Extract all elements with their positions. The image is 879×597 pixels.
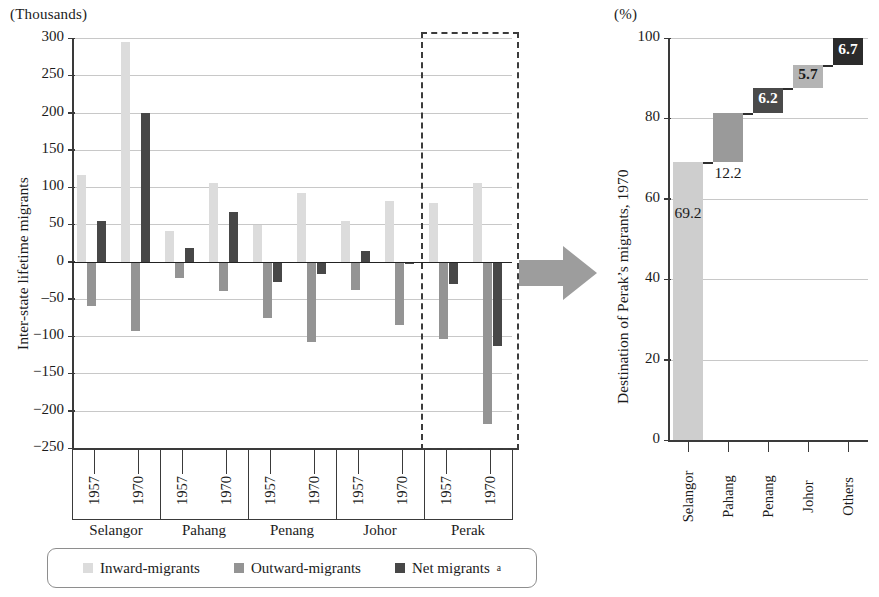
y-tick-mark <box>68 149 75 151</box>
waterfall-value-others: 6.7 <box>822 40 874 58</box>
y-tick-mark <box>68 410 75 412</box>
gridline <box>72 150 512 151</box>
group-label-penang: Penang <box>248 522 336 539</box>
bar-outward-johor-1970 <box>395 262 404 325</box>
bar-net-pahang-1957 <box>185 248 194 261</box>
category-tick <box>402 448 403 474</box>
left-y-tick-label: −100 <box>0 326 64 343</box>
bar-net-penang-1957 <box>273 262 282 283</box>
y-tick-mark <box>664 279 671 281</box>
category-tick <box>768 440 769 452</box>
bar-inward-perak-1957 <box>429 203 438 261</box>
legend-item-1[interactable]: Outward-migrants <box>234 560 361 577</box>
chart-legend: Inward-migrantsOutward-migrantsNet migra… <box>47 548 537 588</box>
group-divider <box>160 448 161 520</box>
right-y-axis-line <box>668 38 670 440</box>
legend-swatch-icon <box>83 563 93 573</box>
waterfall-value-pahang: 12.2 <box>702 164 754 182</box>
gridline <box>72 373 512 374</box>
legend-item-0[interactable]: Inward-migrants <box>83 560 200 577</box>
waterfall-connector <box>703 162 713 164</box>
legend-footnote-marker: a <box>497 563 501 573</box>
group-label-pahang: Pahang <box>160 522 248 539</box>
left-y-tick-label: 100 <box>0 177 64 194</box>
right-y-tick-label: 40 <box>600 269 660 286</box>
group-divider <box>72 448 73 520</box>
right-unit-label: (%) <box>614 6 637 23</box>
bar-outward-selangor-1970 <box>131 262 140 331</box>
year-label-johor-1957: 1957 <box>350 473 367 509</box>
y-tick-mark <box>664 38 671 40</box>
legend-swatch-icon <box>234 563 244 573</box>
left-y-tick-label: 0 <box>0 252 64 269</box>
legend-label: Inward-migrants <box>100 560 200 577</box>
bar-net-selangor-1970 <box>141 113 150 262</box>
bar-outward-perak-1970 <box>483 262 492 425</box>
right-y-tick-label: 20 <box>600 350 660 367</box>
gridline <box>72 224 512 225</box>
gridline <box>72 113 512 114</box>
figure-two-panel-migration: (Thousands) Inter-state lifetime migrant… <box>0 0 879 597</box>
legend-swatch-icon <box>395 563 405 573</box>
category-tick <box>446 448 447 474</box>
bar-inward-pahang-1957 <box>165 231 174 262</box>
right-category-label-pahang: Pahang <box>720 457 737 537</box>
right-category-label-penang: Penang <box>760 457 777 537</box>
right-y-tick-label: 0 <box>600 430 660 447</box>
year-label-pahang-1970: 1970 <box>218 473 235 509</box>
bar-net-penang-1970 <box>317 262 326 275</box>
right-plot-area: 69.212.26.25.76.7 <box>668 38 868 440</box>
category-tick <box>848 440 849 452</box>
y-tick-mark <box>68 298 75 300</box>
legend-item-2[interactable]: Net migrantsa <box>395 560 501 577</box>
gridline <box>72 38 512 39</box>
right-category-label-johor: Johor <box>800 457 817 537</box>
legend-label: Outward-migrants <box>251 560 361 577</box>
waterfall-connector <box>743 113 753 115</box>
group-label-johor: Johor <box>336 522 424 539</box>
zero-line <box>72 262 512 264</box>
gridline <box>72 187 512 188</box>
bar-outward-selangor-1957 <box>87 262 96 307</box>
legend-label: Net migrants <box>412 560 490 577</box>
left-y-tick-label: 150 <box>0 140 64 157</box>
left-unit-label: (Thousands) <box>10 6 87 23</box>
bar-inward-penang-1957 <box>253 225 262 262</box>
left-y-tick-label: 50 <box>0 214 64 231</box>
left-y-tick-label: 200 <box>0 103 64 120</box>
category-tick <box>314 448 315 474</box>
bar-inward-selangor-1957 <box>77 175 86 261</box>
right-category-label-selangor: Selangor <box>680 457 697 537</box>
y-tick-mark <box>68 373 75 375</box>
category-tick <box>270 448 271 474</box>
group-divider <box>336 448 337 520</box>
category-tick <box>808 440 809 452</box>
right-panel-waterfall-chart: (%) Destination of Perak’s migrants, 197… <box>600 0 879 540</box>
right-y-tick-label: 100 <box>600 28 660 45</box>
y-tick-mark <box>68 112 75 114</box>
gridline <box>72 75 512 76</box>
waterfall-value-selangor: 69.2 <box>662 204 714 222</box>
right-category-axis: SelangorPahangPenangJohorOthers <box>668 440 868 540</box>
group-label-perak: Perak <box>424 522 512 539</box>
y-tick-mark <box>68 336 75 338</box>
left-y-axis-line <box>72 38 74 448</box>
right-category-label-others: Others <box>840 457 857 537</box>
waterfall-bar-pahang <box>713 113 743 162</box>
category-tick <box>688 440 689 452</box>
category-tick <box>358 448 359 474</box>
year-label-pahang-1957: 1957 <box>174 473 191 509</box>
y-tick-mark <box>664 118 671 120</box>
bar-inward-pahang-1970 <box>209 183 218 262</box>
bar-outward-penang-1970 <box>307 262 316 343</box>
left-plot-area <box>72 38 512 448</box>
left-category-axis: 19571970Selangor19571970Pahang19571970Pe… <box>72 448 512 540</box>
left-y-tick-label: −250 <box>0 438 64 455</box>
bar-net-perak-1970 <box>493 262 502 346</box>
group-divider <box>424 448 425 520</box>
group-divider <box>512 448 513 520</box>
waterfall-connector <box>823 65 833 67</box>
left-y-tick-label: ‒50 <box>0 289 64 306</box>
bar-net-perak-1957 <box>449 262 458 284</box>
left-y-tick-label: 300 <box>0 28 64 45</box>
